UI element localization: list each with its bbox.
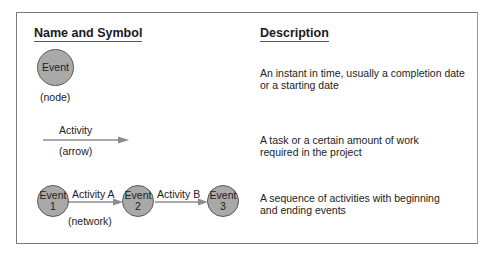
activity-a-label: Activity A [72,188,115,201]
event-3-number: 3 [220,201,226,212]
network-caption: (network) [68,215,112,228]
activity-arrow-icon [43,137,129,144]
event-2-node: Event 2 [122,185,154,217]
event-2-number: 2 [135,201,141,212]
description-network-line1: A sequence of activities with beginning [260,192,440,205]
event-3-node: Event 3 [207,185,239,217]
event-1-number: 1 [50,201,56,212]
description-network-line2: and ending events [260,204,346,217]
event-1-node: Event 1 [37,185,69,217]
activity-b-label: Activity B [157,188,200,201]
